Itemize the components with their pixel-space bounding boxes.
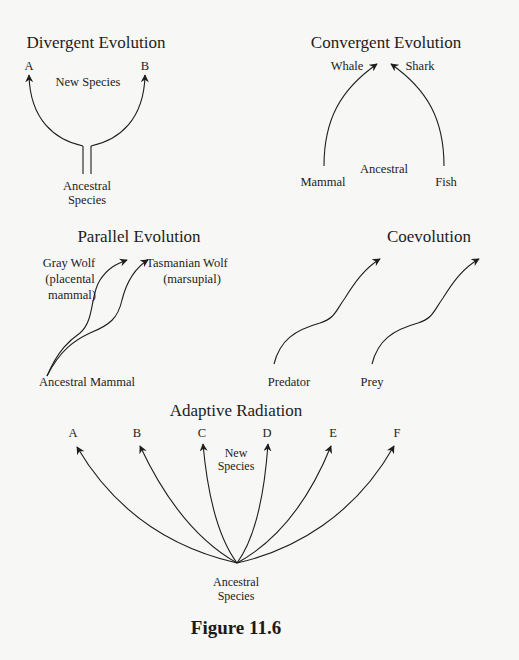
radiation-ancestor-line2: Species xyxy=(218,590,255,602)
radiation-species-b-label: B xyxy=(133,427,141,440)
radiation-new-species-line1: New xyxy=(225,447,248,459)
radiation-species-f-label: F xyxy=(394,427,401,440)
divergent-new-species-label: New Species xyxy=(56,76,121,89)
coevolution-predator-arrow xyxy=(274,259,380,364)
convergent-title: Convergent Evolution xyxy=(311,34,461,51)
parallel-gray-wolf-line2: (placental xyxy=(45,273,94,286)
divergent-ancestor-line1: Ancestral xyxy=(63,180,111,193)
divergent-ancestor-line2: Species xyxy=(68,194,106,207)
convergent-mammal-arrow xyxy=(324,64,377,166)
parallel-ancestor-label: Ancestral Mammal xyxy=(39,376,135,389)
convergent-fish-arrow xyxy=(391,64,444,166)
radiation-ancestor-line1: Ancestral xyxy=(213,576,259,588)
convergent-ancestral-label: Ancestral xyxy=(360,163,408,176)
convergent-whale-label: Whale xyxy=(331,60,364,73)
evolution-patterns-diagram xyxy=(0,0,519,660)
adaptive-radiation-title: Adaptive Radiation xyxy=(170,402,303,419)
divergent-diagram xyxy=(29,75,145,174)
convergent-diagram xyxy=(324,64,444,166)
radiation-new-species-line2: Species xyxy=(218,460,255,472)
figure-caption: Figure 11.6 xyxy=(191,618,281,637)
parallel-gray-wolf-line1: Gray Wolf xyxy=(43,257,96,270)
coevolution-title: Coevolution xyxy=(387,228,471,245)
convergent-shark-label: Shark xyxy=(405,60,434,73)
coevolution-diagram xyxy=(274,259,479,364)
divergent-species-b-label: B xyxy=(141,60,149,73)
coevolution-prey-label: Prey xyxy=(361,376,384,389)
parallel-title: Parallel Evolution xyxy=(77,228,200,245)
parallel-tasmanian-wolf-line2: (marsupial) xyxy=(163,273,221,286)
parallel-gray-wolf-line3: mammal) xyxy=(48,289,96,302)
coevolution-prey-arrow xyxy=(372,259,479,364)
convergent-mammal-label: Mammal xyxy=(300,176,345,189)
convergent-fish-label: Fish xyxy=(435,176,457,189)
coevolution-predator-label: Predator xyxy=(268,376,310,389)
radiation-species-a-label: A xyxy=(68,427,77,440)
radiation-species-e-label: E xyxy=(329,427,337,440)
figure-canvas: Divergent Evolution A B New Species Ance… xyxy=(0,0,519,660)
radiation-species-c-label: C xyxy=(198,427,206,440)
divergent-title: Divergent Evolution xyxy=(27,34,166,51)
divergent-species-a-label: A xyxy=(24,60,33,73)
parallel-tasmanian-wolf-line1: Tasmanian Wolf xyxy=(146,257,228,270)
radiation-species-d-label: D xyxy=(262,427,271,440)
